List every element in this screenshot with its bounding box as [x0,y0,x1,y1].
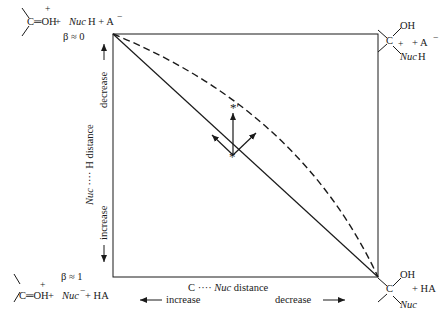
carbon-text: C [386,36,393,47]
plus-sign: + [48,291,54,302]
x-decrease-label: decrease [275,295,311,306]
nuc-h-a-text: H + A [88,17,114,28]
bond-line [378,294,387,302]
diagonal-reaction-path [113,34,378,277]
nuc-text: Nuc [62,291,79,302]
nuc-charge: + [398,40,403,50]
bond-line [14,274,20,284]
x-axis-c: C [188,282,195,293]
oxonium-charge: + [45,5,50,15]
x-axis-dots: ···· [195,282,214,293]
carbonyl-text: C═OH [27,17,57,28]
nuc-h-text: H [418,52,426,63]
plus-ha-text: + HA [412,284,436,295]
y-increase-text: increase [98,206,109,240]
nuc-text: Nuc [400,52,417,63]
y-axis-dots: ···· [84,169,95,188]
perpendicular-arrow [233,133,256,155]
plus-sign: + [55,17,61,28]
hydroxyl-text: OH [400,21,415,32]
x-increase-label: increase [166,295,200,306]
x-axis-suffix: distance [231,282,268,293]
y-decrease-text: decrease [98,72,109,108]
shifted-transition-state-marker: *′ [230,101,239,114]
transition-state-marker: * [229,150,236,163]
y-axis-nuc: Nuc [84,188,95,205]
anion-charge: − [117,13,122,23]
bond-line [22,26,29,36]
hydroxyl-text: OH [400,270,415,281]
anion-charge: − [433,34,438,44]
y-axis-title: Nuc ···· H distance [85,124,96,205]
nuc-text: Nuc [400,300,417,311]
plus-ha-text: + HA [85,291,109,302]
plus-anion-text: + A [412,38,428,49]
x-axis-nuc: Nuc [214,282,231,293]
carbon-text: C [386,284,393,295]
nuc-text: Nuc [69,17,86,28]
x-axis-title: C ···· Nuc distance [188,283,268,294]
beta-one-label: β ≈ 1 [61,272,83,283]
beta-zero-label: β ≈ 0 [63,32,85,43]
y-decrease-label: decrease [99,72,110,108]
carbonyl-text: C═OH [19,291,49,302]
y-axis-suffix: H distance [84,124,95,169]
y-increase-label: increase [99,206,110,240]
more-ofarrell-jencks-diagram [0,0,442,315]
